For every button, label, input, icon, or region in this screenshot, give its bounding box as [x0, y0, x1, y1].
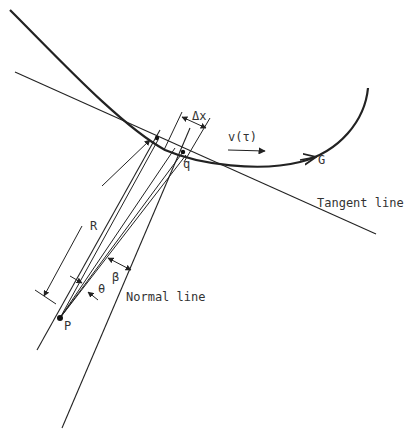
beta-label: β [112, 270, 119, 284]
normal-line-label: Normal line [126, 290, 205, 304]
R-dimension [44, 226, 82, 296]
curve-G [10, 10, 368, 167]
point-q [181, 150, 185, 154]
radius-line [37, 130, 160, 350]
beta-dimension [108, 258, 131, 270]
point-P [57, 315, 63, 321]
point-q-label: q [183, 157, 190, 171]
point-P-label: P [64, 319, 71, 333]
delta-x-label: Δx [192, 109, 206, 123]
velocity-arrow [228, 150, 265, 151]
theta-label: θ [98, 282, 105, 296]
theta-arrow-1 [70, 276, 82, 283]
radius-label: R [90, 219, 98, 233]
velocity-label: v(τ) [228, 130, 257, 144]
geometry-diagram: Δx v(τ) G Tangent line Normal line R q P… [0, 0, 413, 436]
theta-arrow-2 [88, 292, 98, 300]
tangent-line-label: Tangent line [317, 196, 404, 210]
normal-line [62, 128, 190, 428]
curve-G-label: G [318, 153, 325, 167]
contact-point [155, 136, 159, 140]
